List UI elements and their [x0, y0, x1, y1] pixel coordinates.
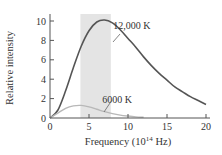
x-tick-label: 15: [162, 121, 172, 132]
x-tick-label: 5: [87, 121, 92, 132]
blackbody-chart: 0246810 05101520 12,000 K6000 K Relative…: [0, 0, 222, 155]
y-tick-label: 0: [41, 113, 46, 124]
y-ticks: 0246810: [36, 16, 54, 124]
y-tick-label: 8: [41, 35, 46, 46]
curve-label: 6000 K: [102, 94, 133, 105]
x-tick-label: 20: [201, 121, 211, 132]
y-tick-label: 4: [41, 74, 46, 85]
y-tick-label: 2: [41, 93, 46, 104]
y-tick-label: 10: [36, 16, 46, 27]
y-tick-label: 6: [41, 54, 46, 65]
x-axis-title: Frequency (1014 Hz): [85, 135, 172, 148]
curve-label: 12,000 K: [113, 20, 151, 31]
x-tick-label: 0: [48, 121, 53, 132]
x-tick-label: 10: [123, 121, 133, 132]
y-axis-title: Relative intensity: [4, 30, 15, 105]
